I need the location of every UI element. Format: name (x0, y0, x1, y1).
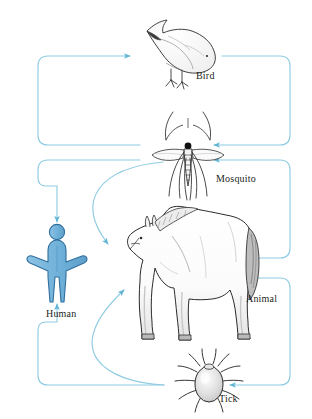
edge-mosquito-to-human (38, 160, 140, 222)
mosquito-icon (152, 112, 224, 200)
edge-bird-to-mosquito (214, 56, 290, 145)
transmission-cycle-diagram (0, 0, 312, 419)
human-icon (27, 224, 87, 302)
node-label-human: Human (46, 308, 76, 319)
edge-mosquito-to-bird (38, 56, 140, 145)
node-label-animal: Animal (246, 293, 277, 304)
node-label-bird: Bird (196, 70, 215, 81)
node-label-mosquito: Mosquito (216, 173, 256, 184)
horse-icon (128, 206, 259, 340)
node-label-tick: Tick (219, 393, 238, 404)
